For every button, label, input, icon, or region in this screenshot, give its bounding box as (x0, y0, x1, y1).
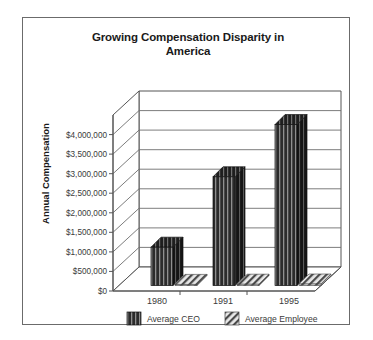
bar-ceo-1995[interactable] (275, 115, 307, 286)
plot-area: $0 $500,000 $1,000,000 $1,500,000 $2,000… (23, 18, 351, 326)
x-tick-label: 1995 (279, 296, 299, 306)
plot-left-wall (113, 91, 139, 291)
y-tick-label: $1,000,000 (66, 248, 107, 257)
y-tick-label: $3,000,000 (66, 170, 107, 179)
bar-ceo-1980[interactable] (151, 237, 183, 285)
y-tick-label: $0 (98, 287, 108, 296)
y-tick-labels: $0 $500,000 $1,000,000 $1,500,000 $2,000… (66, 131, 107, 296)
y-tick-label: $1,500,000 (66, 228, 107, 237)
chart-frame: Growing Compensation Disparity in Americ… (22, 17, 350, 325)
y-tick-label: $500,000 (73, 267, 108, 276)
y-tick-label: $2,000,000 (66, 209, 107, 218)
legend-label-ceo: Average CEO (147, 314, 200, 324)
legend-swatch-ceo-icon (127, 312, 141, 325)
x-tick-labels: 1980 1991 1995 (147, 296, 299, 306)
y-axis (109, 115, 113, 291)
x-tick-label: 1980 (147, 296, 167, 306)
legend-item-employee[interactable]: Average Employee (225, 312, 318, 325)
y-tick-label: $4,000,000 (66, 131, 107, 140)
legend-label-employee: Average Employee (245, 314, 318, 324)
y-tick-label: $3,500,000 (66, 150, 107, 159)
chart-legend: Average CEO Average Employee (127, 312, 318, 325)
y-tick-label: $2,500,000 (66, 189, 107, 198)
legend-swatch-employee-icon (225, 312, 239, 325)
x-tick-label: 1991 (213, 296, 233, 306)
bar-ceo-1991[interactable] (213, 167, 245, 286)
legend-item-ceo[interactable]: Average CEO (127, 312, 200, 325)
